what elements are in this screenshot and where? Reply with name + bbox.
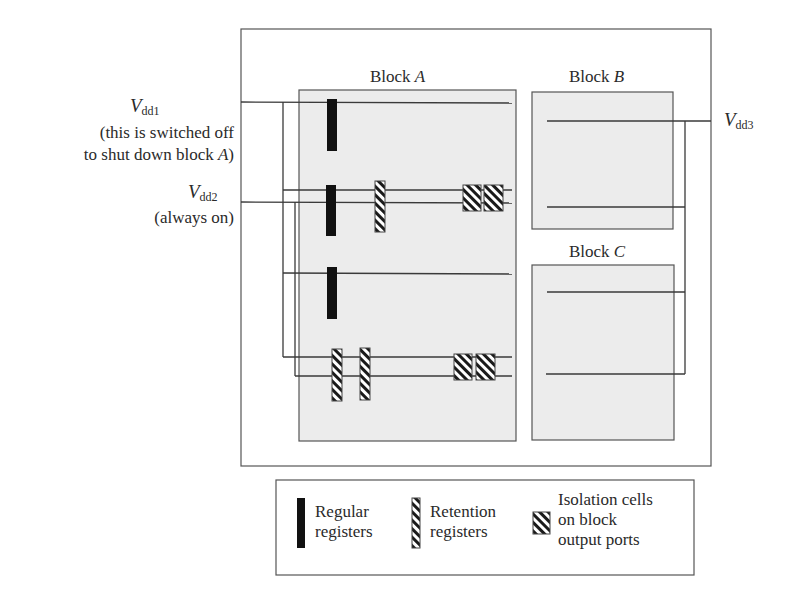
legend-isolation-cells: Isolation cells on block output ports (558, 490, 653, 550)
isolation-cell (454, 354, 472, 380)
block-a-title: Block A (370, 68, 425, 85)
vdd1-label: Vdd1 (130, 96, 160, 117)
retention-register (375, 181, 385, 232)
regular-register-icon (297, 498, 305, 548)
isolation-cell-icon (533, 512, 550, 534)
vdd3-label: Vdd3 (724, 110, 754, 131)
regular-register (327, 99, 337, 151)
power-domain-diagram (0, 0, 797, 606)
regular-register (326, 185, 336, 236)
vdd2-note: (always on) (154, 209, 234, 226)
vdd1-note-line1: (this is switched off (100, 124, 234, 141)
legend-retention-registers: Retention registers (430, 502, 496, 542)
retention-register (360, 348, 370, 400)
isolation-cell (484, 185, 503, 211)
retention-register (332, 349, 342, 401)
regular-register (327, 267, 337, 319)
block-c (532, 265, 674, 440)
block-b (532, 92, 673, 229)
legend-regular-registers: Regular registers (315, 502, 373, 542)
retention-register-icon (412, 498, 420, 548)
isolation-cell (476, 354, 495, 380)
block-b-title: Block B (569, 68, 624, 85)
isolation-cell (463, 185, 481, 211)
vdd1-note-line2: to shut down block A) (84, 146, 234, 163)
vdd2-label: Vdd2 (188, 182, 218, 203)
block-c-title: Block C (569, 243, 625, 260)
